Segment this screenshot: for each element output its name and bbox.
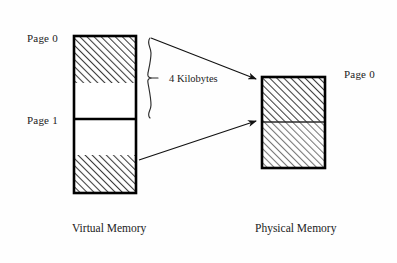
physical-segment-frame-lower (262, 122, 325, 168)
virtual-segment-page1-mapped (74, 155, 136, 193)
diagram-canvas: Page 0 Page 1 Page 0 4 Kilobytes Virtual… (0, 0, 397, 263)
arrow-page1-to-frame (139, 121, 256, 160)
label-virtual-page-1: Page 1 (27, 115, 58, 126)
virtual-memory-block (74, 36, 136, 193)
caption-physical-memory: Physical Memory (255, 223, 336, 235)
virtual-segment-page0-unmapped (74, 83, 136, 119)
page-size-brace (148, 38, 158, 118)
annotation-page-size: 4 Kilobytes (169, 74, 218, 85)
mapping-arrows (139, 38, 256, 160)
virtual-segment-page1-unmapped (74, 119, 136, 155)
virtual-segment-page0-mapped (74, 36, 136, 83)
label-virtual-page-0: Page 0 (27, 33, 58, 44)
caption-virtual-memory: Virtual Memory (72, 223, 146, 235)
diagram-artwork (0, 0, 397, 263)
physical-memory-block (262, 77, 325, 168)
physical-segment-frame-upper (262, 77, 325, 122)
label-physical-page-0: Page 0 (344, 69, 375, 80)
